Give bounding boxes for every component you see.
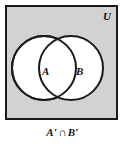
caption-left-operand: A′ <box>46 126 57 138</box>
figure-caption: A′∩B′ <box>0 126 125 138</box>
venn-diagram-figure: U A B A′∩B′ <box>0 0 125 146</box>
set-b-label: B <box>76 66 83 77</box>
caption-right-operand: B′ <box>68 126 79 138</box>
universal-set-rectangle: U A B <box>5 5 118 120</box>
venn-circles-graphic <box>7 7 116 118</box>
caption-intersection-operator: ∩ <box>57 126 67 138</box>
universal-set-label: U <box>103 11 111 22</box>
set-a-label: A <box>42 66 49 77</box>
